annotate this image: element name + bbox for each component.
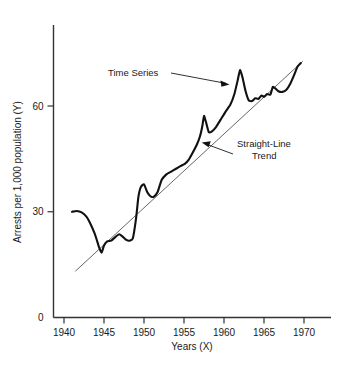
x-tick-label: 1955: [173, 327, 196, 338]
trend-label-line-2: Trend: [252, 150, 276, 161]
x-tick-label: 1960: [213, 327, 236, 338]
x-tick-label: 1940: [53, 327, 76, 338]
x-tick-label: 1950: [133, 327, 156, 338]
y-tick-label: 30: [32, 206, 44, 217]
trend-label-line-1: Straight-Line: [237, 138, 291, 149]
y-tick-label: 60: [32, 101, 44, 112]
chart-figure: 1940194519501955196019651970 03060 Time …: [0, 0, 346, 376]
straight-line-trend-annotation: Straight-Line Trend: [202, 138, 291, 161]
y-tick-label: 0: [38, 312, 44, 323]
axis-lines: [54, 25, 332, 318]
straight-line-trend: [76, 62, 303, 271]
x-tick-label: 1970: [293, 327, 316, 338]
trend-leader-line: [206, 144, 234, 154]
x-tick-label: 1965: [253, 327, 276, 338]
time-series-label: Time Series: [108, 67, 159, 78]
chart-canvas: 1940194519501955196019651970 03060 Time …: [0, 0, 346, 376]
x-tick-label: 1945: [93, 327, 116, 338]
time-series-leader-line: [171, 73, 226, 83]
x-axis-title: Years (X): [171, 341, 212, 352]
x-axis-ticks: 1940194519501955196019651970: [53, 318, 316, 338]
y-axis-title: Arrests per 1,000 population (Y): [12, 101, 23, 243]
time-series-arrowhead-icon: [221, 81, 230, 87]
time-series-annotation: Time Series: [108, 67, 230, 87]
trend-arrowhead-icon: [202, 141, 211, 147]
y-axis-ticks: 03060: [32, 101, 53, 324]
